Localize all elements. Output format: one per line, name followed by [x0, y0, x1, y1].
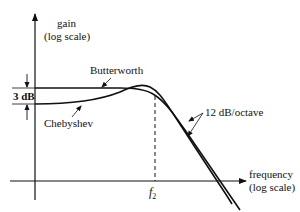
x-axis-label-line1: frequency — [249, 168, 293, 180]
y-axis-label-line2: (log scale) — [44, 30, 90, 43]
rolloff-label: 12 dB/octave — [205, 106, 263, 118]
ripple-label: 3 dB — [13, 90, 35, 102]
x-axis-label-line2: (log scale) — [249, 181, 295, 194]
butterworth-pointer — [102, 78, 111, 87]
chebyshev-label: Chebyshev — [44, 117, 93, 129]
chebyshev-curve — [35, 85, 232, 204]
y-axis-label-line1: gain — [57, 17, 76, 29]
cutoff-label: f2 — [149, 185, 156, 201]
butterworth-label: Butterworth — [90, 64, 144, 76]
chebyshev-pointer — [72, 106, 81, 117]
filter-response-diagram: gain (log scale) frequency (log scale) 3… — [0, 0, 300, 212]
rolloff-pointer-1 — [189, 113, 203, 121]
rolloff-pointer-2 — [188, 113, 203, 136]
